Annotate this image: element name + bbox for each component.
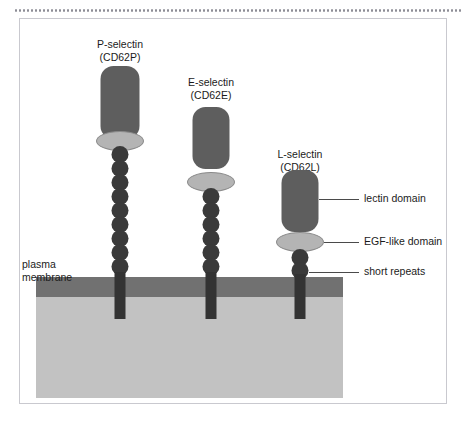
plasma-membrane-label-line1: plasma	[22, 258, 56, 270]
l-selectin-transmembrane-stalk[interactable]	[295, 274, 306, 319]
short-repeats-annotation: short repeats	[364, 265, 425, 278]
e-selectin-cd: (CD62E)	[188, 89, 234, 102]
short-repeats-leader-line	[309, 272, 359, 273]
e-selectin-name: E-selectin	[188, 76, 234, 88]
p-selectin-name: P-selectin	[97, 38, 143, 50]
p-selectin-cd: (CD62P)	[97, 51, 143, 64]
e-selectin-lectin-domain[interactable]	[193, 107, 230, 169]
plasma-membrane-label: plasma membrane	[22, 258, 72, 284]
diagram-canvas: plasma membrane P-selectin (CD62P)	[0, 0, 461, 422]
e-selectin-label: E-selectin (CD62E)	[188, 76, 234, 102]
lectin-domain-leader-line	[319, 199, 359, 200]
figure-page: plasma membrane P-selectin (CD62P)	[0, 0, 461, 422]
e-selectin-transmembrane-stalk[interactable]	[206, 272, 217, 319]
p-selectin-lectin-domain[interactable]	[101, 66, 140, 139]
egf-like-domain-leader-line	[324, 242, 359, 243]
l-selectin-name: L-selectin	[278, 148, 323, 160]
plasma-membrane-label-line2: membrane	[22, 271, 72, 284]
l-selectin-lectin-domain[interactable]	[282, 170, 319, 232]
lectin-domain-annotation: lectin domain	[364, 192, 426, 205]
egf-like-domain-annotation: EGF-like domain	[364, 235, 442, 248]
p-selectin-transmembrane-stalk[interactable]	[115, 272, 126, 319]
p-selectin-label: P-selectin (CD62P)	[97, 38, 143, 64]
